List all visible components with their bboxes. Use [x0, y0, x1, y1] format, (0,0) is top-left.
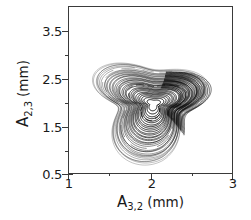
plot-frame	[68, 6, 233, 174]
x-tick-label-3: 3	[221, 176, 245, 191]
figure-root: 3.5 2.5 1.5 0.5 1 2 3 A3,2(mm) A2,3(mm)	[0, 0, 251, 220]
x-axis-symbol: A	[117, 193, 127, 211]
x-tick-label-1: 1	[57, 176, 81, 191]
y-axis-symbol: A	[14, 117, 32, 127]
x-axis-unit: (mm)	[147, 194, 184, 210]
x-tick-label-2: 2	[140, 176, 164, 191]
y-axis-unit: (mm)	[15, 60, 31, 97]
y-axis-subscript: 2,3	[23, 101, 34, 117]
x-axis-subscript: 3,2	[127, 201, 143, 212]
y-axis-title: A2,3(mm)	[14, 14, 33, 174]
attractor-plot	[69, 7, 234, 175]
x-axis-title: A3,2(mm)	[68, 193, 233, 212]
